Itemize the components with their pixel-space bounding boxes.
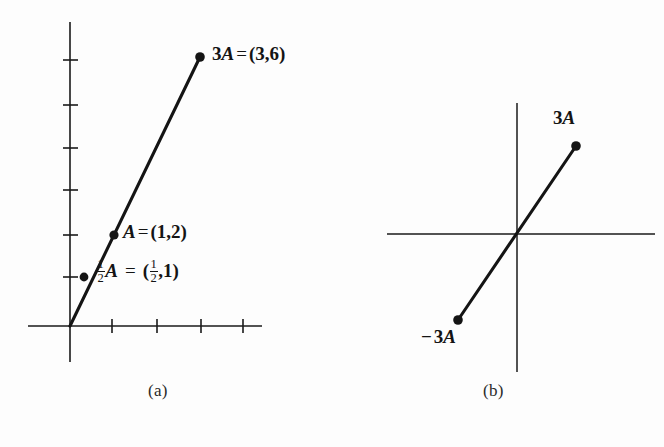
vector-scalar-multiplication-figure: 3A=(3,6) A=(1,2) 1 2 A=( 1 2 ,1) 3A −3A … (0, 0, 664, 447)
panel-a-label-a-var: A (123, 221, 136, 242)
panel-a-label-half-a-value-denominator: 2 (150, 272, 158, 285)
panel-a-vector-line (70, 57, 200, 326)
panel-a-label-3a: 3A=(3,6) (212, 44, 285, 63)
panel-a-caption: (a) (148, 381, 168, 401)
panel-a-label-half-a-value-rest: ,1) (158, 260, 179, 281)
panel-a-point-a (109, 230, 118, 239)
panel-b-caption: (b) (483, 381, 504, 401)
panel-a-label-half-a-value-open: ( (143, 260, 149, 281)
panel-b-label-3a-var: A (563, 107, 576, 128)
panel-a-label-half-a-equals: = (118, 260, 143, 281)
panel-a-label-a-equals: = (136, 221, 151, 242)
panel-a-label-half-a-fraction: 1 2 (97, 258, 105, 285)
panel-a-label-3a-equals: = (234, 43, 249, 64)
panel-b-label-neg-3a-sign: − (421, 326, 432, 347)
panel-a-label-half-a-numerator: 1 (97, 258, 105, 272)
panel-a-label-3a-var: A (222, 43, 235, 64)
panel-a-label-a-value: (1,2) (150, 221, 186, 242)
panel-b-label-neg-3a: −3A (421, 327, 456, 346)
panel-b-label-3a: 3A (553, 108, 575, 127)
panel-a-graph (28, 22, 262, 362)
panel-b-label-neg-3a-var: A (443, 326, 456, 347)
panel-a-label-half-a-value-fraction: 1 2 (150, 258, 158, 285)
panel-a-point-3a (195, 52, 205, 62)
panel-a-label-a: A=(1,2) (123, 222, 187, 241)
panel-b-point-neg-3a (453, 315, 463, 325)
panel-b-point-3a (571, 141, 581, 151)
panel-a-label-half-a-var: A (105, 260, 118, 281)
panel-b-label-3a-coef: 3 (553, 107, 563, 128)
panel-a-label-half-a: 1 2 A=( 1 2 ,1) (96, 258, 179, 285)
panel-a-label-3a-coef: 3 (212, 43, 222, 64)
panel-a-label-3a-value: (3,6) (249, 43, 285, 64)
panel-a-point-half-a (80, 273, 89, 282)
panel-a-label-half-a-denominator: 2 (97, 272, 105, 285)
panel-b-label-neg-3a-coef: 3 (432, 326, 444, 347)
panel-a-label-half-a-value-numerator: 1 (150, 258, 158, 272)
figure-canvas (0, 0, 664, 447)
